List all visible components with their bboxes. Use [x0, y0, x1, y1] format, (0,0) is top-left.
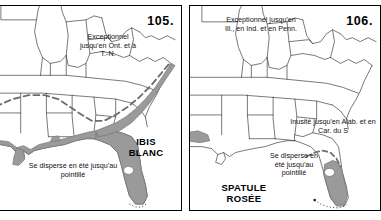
note-northeast-occurrence: Exceptionnel jusqu'en Ill., en Ind. et e… — [222, 16, 300, 33]
species-line-1: SPATULE — [221, 182, 266, 193]
note-summer-dispersal: Se disperse en été jusqu'au pointillé — [270, 152, 318, 178]
map-graphic-spatule-rosee — [190, 6, 380, 210]
note-unusual-occurrence: Inusité jusqu'en Alab. et en Car. du S — [290, 118, 376, 135]
map-panel-ibis-blanc: 105. IBIS BLANC Exceptionnel jusqu'en On… — [0, 5, 182, 211]
dotted-limit-line — [130, 204, 147, 207]
dot-marker — [313, 199, 316, 202]
species-label-ibis-blanc: IBIS BLANC — [118, 136, 174, 158]
range-shading-ibis — [0, 63, 175, 204]
note-northeast-occurrence: Exceptionnel jusqu'en Ont. et à T.-N. — [76, 33, 140, 59]
species-line-2: ROSÉE — [227, 193, 262, 204]
species-line-2: BLANC — [129, 147, 164, 158]
figure-number-105: 105. — [147, 14, 174, 28]
map-panel-spatule-rosee: 106. SPATULE ROSÉE — [189, 5, 381, 211]
species-line-1: IBIS — [136, 136, 156, 147]
note-summer-dispersal: Se disperse en été jusqu'au pointillé — [27, 162, 119, 179]
figure-number-106: 106. — [346, 14, 373, 28]
summer-dispersal-line — [0, 61, 171, 120]
species-label-spatule-rosee: SPATULE ROSÉE — [208, 182, 280, 204]
